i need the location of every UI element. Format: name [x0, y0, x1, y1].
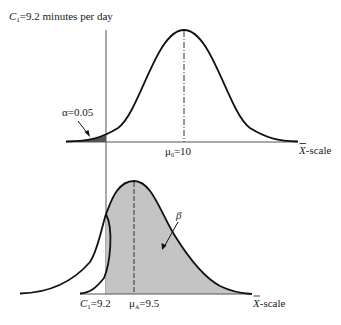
svg-text:C1=9.2 minutes per day: C1=9.2 minutes per day: [9, 10, 113, 24]
bottom-axis-label: X-scale: [252, 297, 285, 309]
alternative-left-tail: [20, 214, 106, 294]
critical-value-title: C1=9.2 minutes per day: [9, 10, 113, 24]
null-distribution-curve: [66, 30, 298, 142]
critical-value-label: C1=9.2: [80, 297, 111, 311]
alpha-label: α=0.05: [62, 106, 94, 118]
hypothesis-test-figure: C1=9.2 minutes per day α=0.05 μ0=10: [0, 0, 341, 325]
top-axis-label: X-scale: [298, 144, 331, 156]
beta-label: β: [175, 209, 182, 221]
alternative-distribution-panel: β C1=9.2 μA=9.5 X-scale: [20, 181, 285, 311]
null-mean-label: μ0=10: [165, 145, 192, 158]
beta-region: [106, 181, 252, 294]
null-distribution-panel: α=0.05 μ0=10 X-scale: [62, 30, 331, 158]
alternative-mean-label: μA=9.5: [129, 297, 160, 310]
